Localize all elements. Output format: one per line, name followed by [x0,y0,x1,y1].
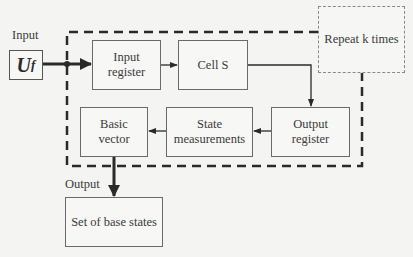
junction-dot [64,61,70,67]
set-of-base-states-block: Set of base states [65,197,163,247]
output-label: Output [65,177,100,192]
repeat-k-times-note: Repeat k times [318,6,405,73]
cell-s-block: Cell S [178,40,248,90]
state-measurements-block: State measurements [166,107,253,157]
input-register-block: Input register [92,40,161,90]
input-label: Input [12,28,38,43]
uf-input-box: Uf [9,50,43,80]
uf-symbol: U [17,54,31,77]
arrow-cells-outputreg [248,65,311,106]
uf-subscript: f [31,57,35,73]
output-register-block: Output register [271,107,350,157]
basic-vector-block: Basic vector [80,107,148,157]
